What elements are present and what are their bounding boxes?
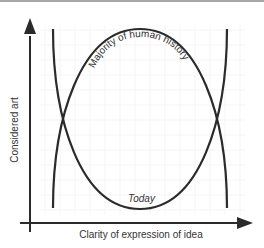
y-axis-arrow-icon: [24, 18, 36, 34]
label-majority-of-human-history: Majority of human history: [86, 28, 192, 70]
curve-today: [53, 29, 227, 209]
background-grid: [40, 25, 245, 215]
x-axis-label: Clarity of expression of idea: [79, 229, 203, 240]
y-axis: [24, 18, 36, 232]
curve-majority-of-human-history: [53, 29, 227, 208]
label-today: Today: [128, 193, 156, 204]
x-axis: [20, 217, 253, 229]
x-axis-arrow-icon: [237, 217, 253, 229]
diagram-canvas: Majority of human history Today Clarity …: [0, 0, 264, 248]
y-axis-label: Considered art: [9, 97, 20, 163]
